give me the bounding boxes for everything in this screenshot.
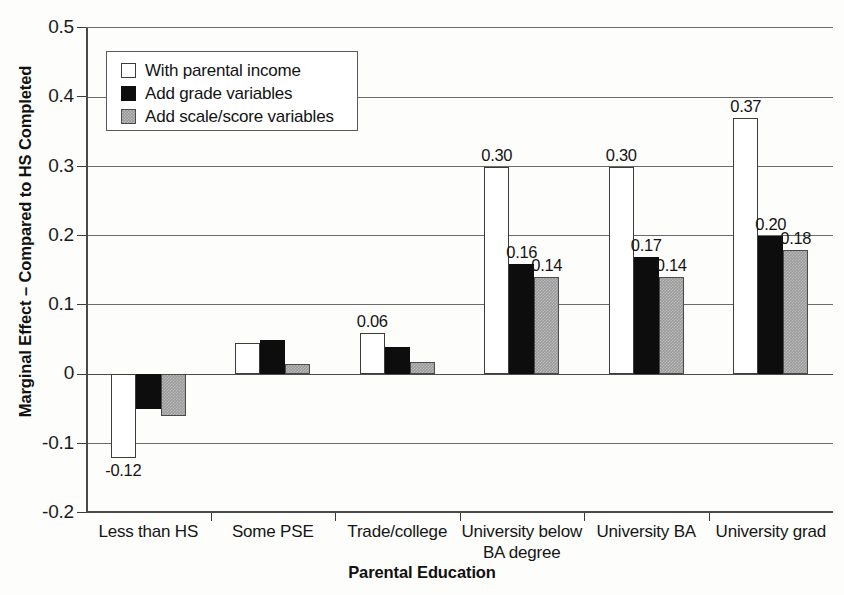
x-axis-title: Parental Education: [0, 563, 844, 582]
legend-swatch-with-parental-income: [121, 63, 136, 78]
bar-value-label: 0.30: [598, 146, 645, 165]
x-tick-mark: [211, 513, 212, 521]
y-tick-mark: [77, 235, 86, 236]
x-tick-mark: [335, 513, 336, 521]
bar-2-0: [360, 333, 385, 375]
y-tick-label-0.3: 0.3: [22, 155, 74, 177]
bar-value-label: 0.14: [648, 256, 695, 275]
bar-5-0: [733, 118, 758, 374]
y-tick-mark: [77, 512, 86, 513]
bar-2-1: [385, 347, 410, 375]
bar-1-2: [285, 364, 310, 374]
bar-2-2: [410, 362, 435, 374]
legend: With parental income Add grade variables…: [106, 51, 358, 131]
y-tick-label-0.2: 0.2: [22, 224, 74, 246]
y-tick-label-0.4: 0.4: [22, 85, 74, 107]
y-tick-mark: [77, 443, 86, 444]
bar-value-label: 0.06: [349, 312, 396, 331]
y-tick-label--0.1: -0.1: [22, 432, 74, 454]
bar-3-1: [509, 264, 534, 375]
bar-3-0: [484, 167, 509, 375]
bar-4-2: [659, 277, 684, 374]
legend-label-1: Add grade variables: [145, 84, 292, 104]
bar-0-0: [111, 374, 136, 457]
y-tick-label-0.5: 0.5: [22, 16, 74, 38]
legend-label-2: Add scale/score variables: [145, 107, 334, 127]
y-tick-label--0.2: -0.2: [22, 501, 74, 523]
bar-value-label: -0.12: [100, 461, 147, 480]
bar-1-0: [235, 343, 260, 374]
bar-5-1: [758, 236, 783, 375]
bar-value-label: 0.14: [523, 256, 570, 275]
legend-item-0: With parental income: [121, 59, 357, 82]
x-tick-mark: [709, 513, 710, 521]
bar-4-0: [609, 167, 634, 375]
bar-0-1: [136, 374, 161, 409]
bar-0-2: [161, 374, 186, 416]
y-tick-mark: [77, 304, 86, 305]
bar-3-2: [534, 277, 559, 374]
y-tick-mark: [77, 27, 86, 28]
legend-label-0: With parental income: [145, 61, 301, 81]
bar-1-1: [260, 340, 285, 375]
legend-swatch-add-scale-score-variables: [121, 109, 136, 124]
y-tick-label-0: 0: [22, 362, 74, 384]
y-tick-mark: [77, 96, 86, 97]
legend-swatch-add-grade-variables: [121, 86, 136, 101]
y-tick-label-0.1: 0.1: [22, 293, 74, 315]
bar-chart: Marginal Effect – Compared to HS Complet…: [0, 0, 844, 595]
bar-value-label: 0.18: [772, 229, 819, 248]
legend-item-2: Add scale/score variables: [121, 105, 357, 128]
bar-5-2: [783, 250, 808, 375]
y-tick-mark: [77, 374, 86, 375]
y-tick-mark: [77, 166, 86, 167]
bar-value-label: 0.30: [473, 146, 520, 165]
x-tick-mark: [584, 513, 585, 521]
legend-item-1: Add grade variables: [121, 82, 357, 105]
bar-value-label: 0.17: [623, 236, 670, 255]
x-category-label-5: University grad: [697, 521, 844, 542]
x-tick-mark: [460, 513, 461, 521]
bar-value-label: 0.37: [722, 97, 769, 116]
